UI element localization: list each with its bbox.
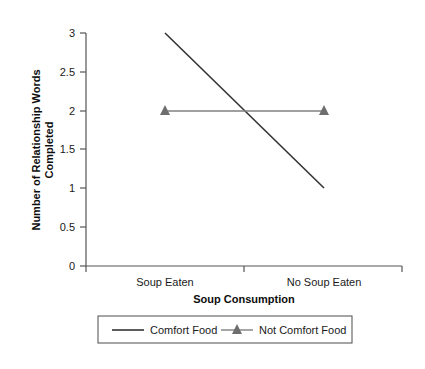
x-axis-category-labels: Soup Eaten No Soup Eaten [136, 276, 361, 288]
x-category-label-no-soup-eaten: No Soup Eaten [287, 276, 362, 288]
x-category-label-soup-eaten: Soup Eaten [136, 276, 194, 288]
line-chart: Number of Relationship Words Completed 3… [0, 0, 425, 369]
legend-label-not-comfort-food: Not Comfort Food [259, 324, 346, 336]
y-tick-label-0: 0 [69, 260, 75, 272]
y-tick-label-2_5: 2.5 [60, 66, 75, 78]
y-axis-ticks [80, 33, 86, 266]
x-axis-ticks [86, 266, 402, 272]
y-tick-label-2: 2 [69, 105, 75, 117]
y-axis-title-line1: Number of Relationship Words [30, 69, 42, 230]
y-tick-label-3: 3 [69, 27, 75, 39]
legend-label-comfort-food: Comfort Food [150, 324, 217, 336]
y-axis-title: Number of Relationship Words Completed [30, 69, 55, 230]
y-axis-title-line2: Completed [43, 122, 55, 179]
chart-figure: Number of Relationship Words Completed 3… [0, 0, 425, 369]
y-axis-tick-labels: 3 2.5 2 1.5 1 0.5 0 [60, 27, 75, 272]
y-tick-label-1: 1 [69, 182, 75, 194]
y-tick-label-1_5: 1.5 [60, 143, 75, 155]
marker-triangle-soup-eaten [160, 105, 170, 115]
x-axis-title: Soup Consumption [193, 293, 295, 305]
y-tick-label-0_5: 0.5 [60, 221, 75, 233]
legend: Comfort Food Not Comfort Food [98, 316, 352, 343]
marker-triangle-no-soup-eaten [319, 105, 329, 115]
